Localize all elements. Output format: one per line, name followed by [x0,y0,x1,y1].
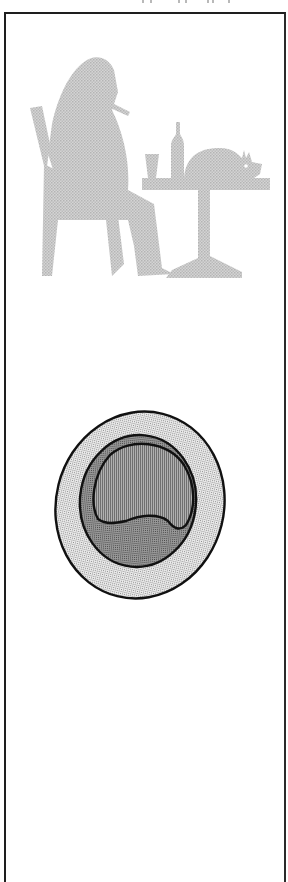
cafe-silhouette-illustration [6,14,284,284]
pig-icon [184,148,262,178]
bottle-icon [171,122,184,178]
cut-off-text-fragment [0,0,288,10]
glass-icon [145,154,159,178]
hatched-blob [94,444,194,529]
schematic-oval-diagram [50,405,230,605]
table-icon [142,178,270,190]
chair-icon [30,106,50,174]
